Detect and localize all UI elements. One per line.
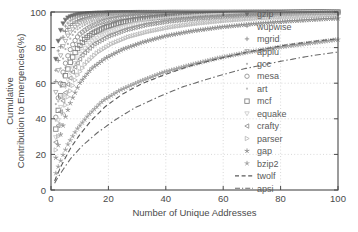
marker [57,100,59,102]
marker [60,67,62,69]
marker [86,23,88,25]
legend-label: gzip [257,9,274,19]
marker [64,48,66,50]
y-tick-label: 20 [35,149,46,160]
marker [62,154,64,156]
marker [103,99,105,101]
marker [147,78,149,80]
marker [137,81,139,83]
marker [151,76,153,78]
x-tick-label: 0 [48,193,53,204]
legend-label: gap [257,146,272,156]
marker [74,131,76,133]
marker [72,135,74,137]
marker [246,163,248,165]
y-axis-label-line-1: Cumulative [4,77,15,125]
marker [246,63,248,65]
y-tick-label: 0 [41,185,46,196]
marker [110,95,112,97]
marker [166,71,168,73]
legend-label: gcc [257,59,272,69]
marker [57,166,59,168]
legend-label: crafty [257,121,280,131]
marker [115,92,117,94]
marker [60,160,62,162]
marker [74,31,76,33]
marker [69,38,71,40]
marker [76,28,78,30]
marker [91,21,93,23]
legend-label: applu [257,47,279,57]
marker [118,90,120,92]
legend-label: apsi [257,184,274,194]
marker [106,98,108,100]
x-axis-label: Number of Unique Addresses [132,207,256,218]
chart-screenshot: 020406080100020406080100Number of Unique… [0,0,358,232]
marker [67,43,69,45]
marker [77,128,79,130]
marker [86,116,88,118]
legend-label: parser [257,134,283,144]
marker [101,101,103,103]
legend-label: equake [257,109,287,119]
plot-background [51,12,338,190]
y-axis-label: CumulativeContribution to Emergencies(%) [4,34,26,169]
marker [176,68,178,70]
marker [55,103,57,105]
x-tick-label: 40 [161,193,172,204]
marker [84,24,86,26]
marker [171,69,173,71]
figure-canvas: 020406080100020406080100Number of Unique… [0,0,358,232]
chart-svg: 020406080100020406080100Number of Unique… [0,0,358,232]
marker [209,59,211,61]
x-tick-label: 100 [330,193,346,204]
marker [62,58,64,60]
marker [79,125,81,127]
marker [93,20,95,22]
marker [149,77,151,79]
marker [168,70,170,72]
marker [180,67,182,69]
marker [81,25,83,27]
x-tick-label: 80 [275,193,286,204]
marker [144,79,146,81]
legend-label: bzip2 [257,159,279,169]
y-tick-label: 100 [30,7,46,18]
marker [84,119,86,121]
marker [79,27,81,29]
y-tick-label: 60 [35,78,46,89]
marker [246,88,248,90]
marker [161,72,163,74]
y-tick-label: 40 [35,113,46,124]
legend-label: wupwise [256,22,292,32]
marker [178,67,180,69]
marker [142,79,144,81]
marker [113,93,115,95]
marker [108,96,110,98]
marker [159,73,161,75]
marker [72,34,74,36]
marker [156,74,158,76]
marker [67,144,69,146]
x-tick-label: 20 [103,193,114,204]
marker [202,61,204,63]
marker [65,149,67,151]
legend-label: mesa [257,71,279,81]
marker [185,65,187,67]
marker [88,22,90,24]
marker [163,71,165,73]
legend-label: mcf [257,96,272,106]
legend-label: art [257,84,268,94]
marker [69,139,71,141]
marker [55,172,57,174]
x-tick-label: 60 [218,193,229,204]
legend-label: mgrid [257,34,280,44]
marker [154,75,156,77]
marker [81,122,83,124]
y-axis-label-line-2: Contribution to Emergencies(%) [15,34,26,169]
y-tick-label: 80 [35,42,46,53]
marker [139,80,141,82]
legend-label: twolf [257,171,276,181]
marker [173,69,175,71]
